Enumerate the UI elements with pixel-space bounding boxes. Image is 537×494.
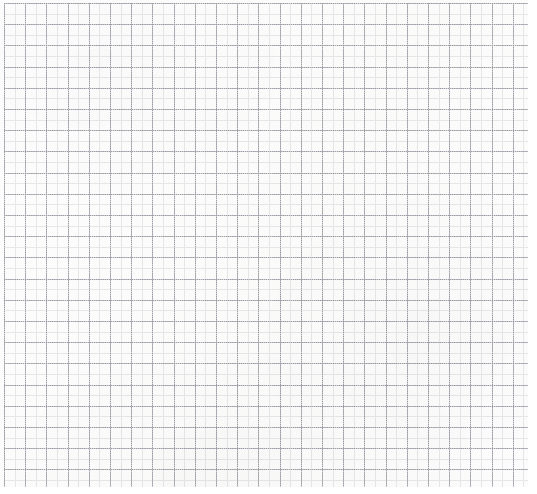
major-gridline-horizontal <box>4 300 528 301</box>
major-gridline-vertical <box>280 3 281 487</box>
major-gridline-vertical <box>343 3 344 487</box>
major-gridline-vertical <box>152 3 153 487</box>
major-gridline-vertical <box>470 3 471 487</box>
major-gridline-vertical <box>46 3 47 487</box>
major-gridline-vertical <box>513 3 514 487</box>
major-gridline-horizontal <box>4 173 528 174</box>
major-gridline-vertical <box>195 3 196 487</box>
major-gridline-horizontal <box>4 88 528 89</box>
major-gridline-vertical <box>258 3 259 487</box>
major-gridline-horizontal <box>4 151 528 152</box>
major-gridline-horizontal <box>4 257 528 258</box>
major-gridline-horizontal <box>4 469 528 470</box>
major-gridline-vertical <box>386 3 387 487</box>
major-gridline-horizontal <box>4 427 528 428</box>
major-gridline-vertical <box>216 3 217 487</box>
major-gridline-vertical <box>407 3 408 487</box>
major-gridline-vertical <box>322 3 323 487</box>
major-gridline-vertical <box>89 3 90 487</box>
major-gridlines <box>4 3 528 487</box>
major-gridline-horizontal <box>4 363 528 364</box>
major-gridline-vertical <box>428 3 429 487</box>
major-gridline-vertical <box>110 3 111 487</box>
major-gridline-horizontal <box>4 236 528 237</box>
graph-paper-canvas <box>0 0 537 494</box>
major-gridline-vertical <box>4 3 5 487</box>
major-gridline-horizontal <box>4 130 528 131</box>
page-margin-right <box>528 0 537 494</box>
major-gridline-horizontal <box>4 3 528 4</box>
major-gridline-vertical <box>25 3 26 487</box>
major-gridline-horizontal <box>4 342 528 343</box>
major-gridline-horizontal <box>4 406 528 407</box>
major-gridline-vertical <box>68 3 69 487</box>
major-gridline-vertical <box>131 3 132 487</box>
major-gridline-horizontal <box>4 385 528 386</box>
major-gridline-vertical <box>237 3 238 487</box>
major-gridline-horizontal <box>4 215 528 216</box>
major-gridline-horizontal <box>4 194 528 195</box>
major-gridline-horizontal <box>4 448 528 449</box>
major-gridline-vertical <box>449 3 450 487</box>
major-gridline-vertical <box>301 3 302 487</box>
major-gridline-horizontal <box>4 67 528 68</box>
grid-area <box>4 3 528 487</box>
major-gridline-horizontal <box>4 45 528 46</box>
major-gridline-horizontal <box>4 109 528 110</box>
major-gridline-vertical <box>492 3 493 487</box>
major-gridline-horizontal <box>4 279 528 280</box>
major-gridline-horizontal <box>4 24 528 25</box>
major-gridline-horizontal <box>4 321 528 322</box>
major-gridline-vertical <box>364 3 365 487</box>
major-gridline-vertical <box>174 3 175 487</box>
page-margin-bottom <box>0 487 537 494</box>
